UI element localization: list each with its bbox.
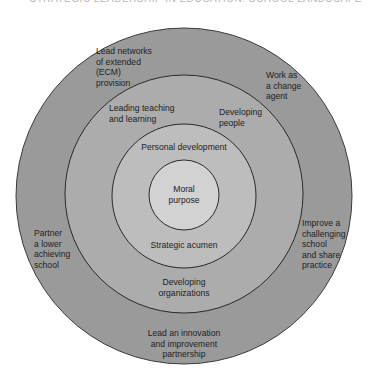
improve-challenging-school-label: Improve a challenging school and share p… [302, 218, 345, 271]
personal-development-label: Personal development [124, 142, 244, 153]
core-label: Moral purpose [149, 184, 219, 205]
developing-organizations-label: Developing organizations [134, 277, 234, 298]
innovation-partnership-label: Lead an innovation and improvement partn… [124, 328, 244, 360]
leading-teaching-label: Leading teaching and learning [109, 103, 174, 124]
developing-people-label: Developing people [219, 107, 262, 128]
lead-networks-label: Lead networks of extended (ECM) provisio… [96, 46, 152, 88]
partner-lower-school-label: Partner a lower achieving school [34, 228, 70, 270]
strategic-acumen-label: Strategic acumen [124, 240, 244, 251]
change-agent-label: Work as a change agent [266, 70, 301, 102]
